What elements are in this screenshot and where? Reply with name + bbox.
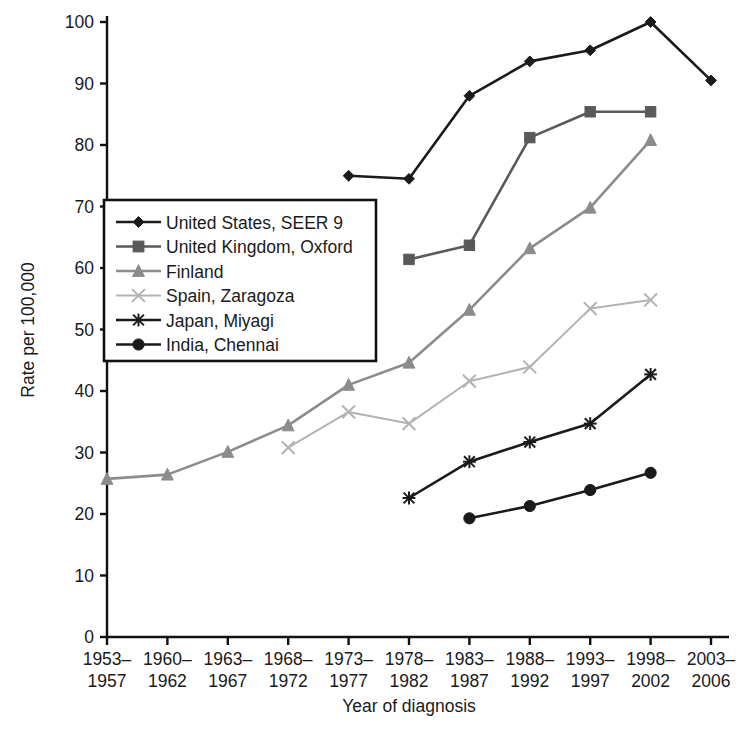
chart-figure: 0102030405060708090100 1953–19571960–196… xyxy=(0,0,746,736)
data-point-marker xyxy=(524,500,535,511)
legend-item-label: India, Chennai xyxy=(166,335,279,355)
data-point-marker xyxy=(133,339,144,350)
x-axis-title: Year of diagnosis xyxy=(342,696,476,716)
y-tick-label: 50 xyxy=(75,320,95,340)
data-point-marker xyxy=(464,513,475,524)
line-chart-canvas: 0102030405060708090100 1953–19571960–196… xyxy=(0,0,746,736)
data-point-marker xyxy=(645,107,655,117)
data-point-marker xyxy=(585,107,595,117)
y-tick-label: 60 xyxy=(75,258,95,278)
legend-item-label: Finland xyxy=(166,262,223,282)
data-point-marker xyxy=(585,484,596,495)
legend-item-label: United States, SEER 9 xyxy=(166,213,343,233)
legend-item-label: Spain, Zaragoza xyxy=(166,286,295,306)
y-tick-label: 70 xyxy=(75,197,95,217)
y-tick-label: 90 xyxy=(75,74,95,94)
chart-legend: United States, SEER 9United Kingdom, Oxf… xyxy=(104,200,376,361)
y-tick-label: 80 xyxy=(75,135,95,155)
y-tick-label: 10 xyxy=(75,566,95,586)
data-point-marker xyxy=(133,241,144,252)
data-point-marker xyxy=(464,240,474,250)
y-tick-label: 20 xyxy=(75,504,95,524)
data-point-marker xyxy=(404,254,414,264)
chart-background xyxy=(0,0,746,736)
legend-item-label: United Kingdom, Oxford xyxy=(166,237,353,257)
y-tick-label: 30 xyxy=(75,443,95,463)
y-tick-label: 0 xyxy=(84,627,94,647)
y-tick-label: 100 xyxy=(65,12,94,32)
y-tick-label: 40 xyxy=(75,381,95,401)
legend-item-label: Japan, Miyagi xyxy=(166,311,274,331)
y-axis-title: Rate per 100,000 xyxy=(18,262,38,398)
data-point-marker xyxy=(645,467,656,478)
data-point-marker xyxy=(525,132,535,142)
